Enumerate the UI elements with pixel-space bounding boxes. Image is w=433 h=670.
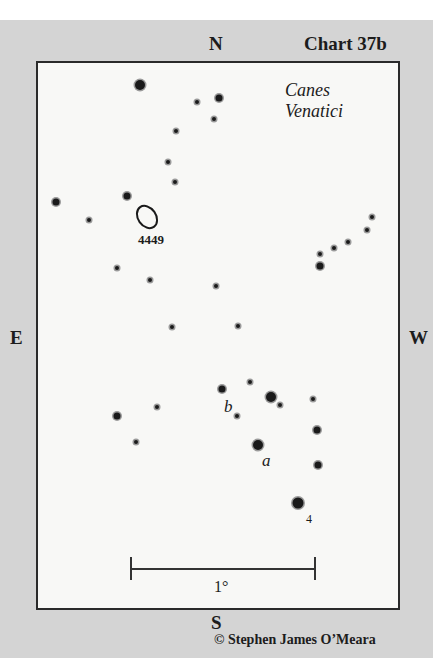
star-label-b: b [224, 397, 233, 417]
star-icon [155, 405, 159, 409]
star-icon [195, 100, 199, 104]
star-icon [115, 266, 119, 270]
star-icon [173, 180, 177, 184]
constellation-line-1: Canes [285, 80, 343, 101]
star-icon [212, 117, 216, 121]
south-label: S [211, 612, 222, 634]
star-icon [216, 95, 223, 102]
star-field [36, 61, 400, 610]
star-icon [87, 218, 91, 222]
star-icon [174, 129, 178, 133]
star-icon [134, 440, 138, 444]
star-icon [53, 199, 60, 206]
star-icon [318, 252, 322, 256]
star-icon [235, 414, 239, 418]
star-icon [170, 325, 174, 329]
star-icon [365, 228, 369, 232]
star-icon [293, 498, 304, 509]
copyright: © Stephen James O’Meara [214, 632, 376, 648]
star-icon [219, 386, 226, 393]
star-icon [166, 160, 170, 164]
scale-tick-right [314, 557, 316, 580]
star-label-4: 4 [306, 512, 312, 527]
scale-bar [131, 568, 315, 570]
star-icon [278, 403, 282, 407]
star-icon [317, 263, 324, 270]
star-icon [370, 215, 374, 219]
star-icon [315, 462, 322, 469]
star-icon [135, 80, 145, 90]
star-icon [311, 397, 315, 401]
star-icon [248, 380, 252, 384]
star-icon [214, 284, 218, 288]
galaxy-label: 4449 [138, 232, 164, 248]
north-label: N [209, 33, 223, 55]
star-icon [148, 278, 152, 282]
chart-title: Chart 37b [304, 33, 387, 55]
star-icon [266, 392, 276, 402]
star-icon [124, 193, 131, 200]
star-label-a: a [262, 451, 271, 471]
constellation-name: Canes Venatici [285, 80, 343, 122]
constellation-line-2: Venatici [285, 101, 343, 122]
east-label: E [10, 327, 23, 349]
star-icon [346, 240, 350, 244]
west-label: W [409, 327, 428, 349]
star-icon [332, 246, 336, 250]
scale-label: 1° [214, 578, 228, 596]
star-icon [253, 440, 263, 450]
star-icon [236, 324, 240, 328]
scale-tick-left [130, 557, 132, 580]
star-icon [314, 427, 321, 434]
star-icon [114, 413, 121, 420]
